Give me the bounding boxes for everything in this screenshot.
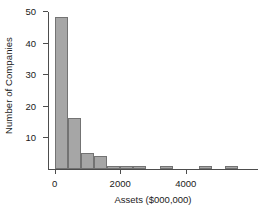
histogram-bar [55,17,68,169]
y-tick-label: 10 [25,132,36,143]
x-tick-label: 0 [52,178,57,189]
y-tick-mark: 50 [43,11,48,12]
y-tick-label: 50 [25,6,36,17]
histogram-bar [68,118,81,169]
y-axis-title-text: Number of Companies [3,37,14,134]
histogram-bar [225,166,238,169]
x-tick-mark [186,169,187,174]
y-tick-mark: 20 [43,106,48,107]
histogram-bar [199,166,212,169]
y-tick-mark: 30 [43,74,48,75]
y-tick-label: 40 [25,37,36,48]
histogram-bar [120,166,133,169]
histogram-chart: Number of Companies 1020304050 020004000… [0,0,261,212]
y-axis-line [48,12,49,170]
x-axis-title: Assets ($000,000) [48,194,258,205]
x-tick-label: 2000 [110,178,131,189]
x-tick-mark [120,169,121,174]
x-tick-label: 4000 [175,178,196,189]
y-tick-mark: 40 [43,43,48,44]
histogram-bar [81,153,94,169]
histogram-bar [133,166,146,169]
plot-area: 1020304050 020004000 [48,12,258,170]
histogram-bar [107,166,120,169]
x-axis-title-text: Assets ($000,000) [114,194,191,205]
y-tick-label: 20 [25,100,36,111]
x-tick-mark [55,169,56,174]
histogram-bar [160,166,173,169]
x-axis-line [48,169,258,170]
y-tick-label: 30 [25,69,36,80]
y-tick-mark: 10 [43,137,48,138]
histogram-bar [94,156,107,169]
y-axis-title: Number of Companies [0,0,16,170]
